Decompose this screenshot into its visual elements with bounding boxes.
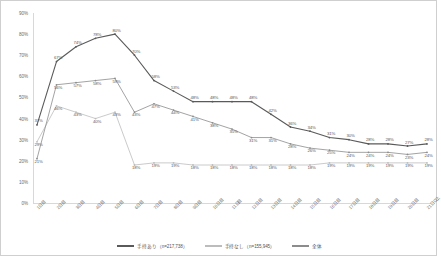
data-label: 23% bbox=[405, 155, 413, 160]
data-label: 38% bbox=[210, 123, 218, 128]
data-label: 19% bbox=[327, 163, 335, 168]
data-point bbox=[387, 143, 389, 145]
data-point bbox=[270, 113, 272, 115]
y-axis-tick-labels: 0%10%20%30%40%50%60%70%80%90% bbox=[1, 13, 31, 203]
data-point bbox=[407, 145, 409, 147]
data-label: 19% bbox=[151, 163, 159, 168]
data-label: 24% bbox=[385, 153, 393, 158]
y-tick-label: 10% bbox=[19, 179, 28, 184]
data-point bbox=[329, 137, 331, 139]
x-axis-tick-labels: 1日目2日目3日目4日目5日目6日目7日目8日目9日目10日目11日目12日目1… bbox=[33, 204, 431, 238]
data-label: 48% bbox=[210, 95, 218, 100]
data-label: 74% bbox=[73, 40, 81, 45]
legend-label: 全体 bbox=[312, 243, 322, 249]
data-label: 19% bbox=[346, 163, 354, 168]
data-label: 42% bbox=[268, 108, 276, 113]
data-label: 18% bbox=[229, 165, 237, 170]
data-label: 18% bbox=[210, 165, 218, 170]
data-label: 48% bbox=[190, 95, 198, 100]
data-point bbox=[56, 61, 58, 63]
data-point bbox=[75, 46, 77, 48]
data-point bbox=[153, 80, 155, 82]
data-label: 67% bbox=[54, 55, 62, 60]
data-label: 47% bbox=[151, 104, 159, 109]
data-label: 48% bbox=[249, 95, 257, 100]
data-label: 41% bbox=[190, 117, 198, 122]
data-point bbox=[426, 143, 428, 145]
legend-swatch-icon bbox=[292, 245, 309, 246]
legend-label: 手持なし（n=155,945） bbox=[225, 243, 275, 249]
data-label: 18% bbox=[132, 165, 140, 170]
data-point bbox=[368, 143, 370, 145]
data-label: 25% bbox=[327, 150, 335, 155]
data-point bbox=[231, 101, 233, 103]
data-label: 70% bbox=[132, 49, 140, 54]
data-point bbox=[348, 139, 350, 141]
data-label: 21% bbox=[34, 159, 42, 164]
data-label: 34% bbox=[307, 125, 315, 130]
legend-item-手持あり[interactable]: 手持あり（n=217,738） bbox=[117, 243, 187, 249]
data-label: 31% bbox=[327, 131, 335, 136]
legend-label: 手持あり（n=217,738） bbox=[137, 243, 187, 249]
data-label: 36% bbox=[288, 121, 296, 126]
data-label: 19% bbox=[171, 163, 179, 168]
data-label: 43% bbox=[73, 112, 81, 117]
data-label: 44% bbox=[171, 110, 179, 115]
data-label: 57% bbox=[73, 83, 81, 88]
data-label: 18% bbox=[249, 165, 257, 170]
data-point bbox=[173, 90, 175, 92]
data-point bbox=[290, 126, 292, 128]
data-label: 28% bbox=[385, 137, 393, 142]
data-label: 37% bbox=[34, 118, 42, 123]
data-label: 19% bbox=[385, 163, 393, 168]
data-label: 56% bbox=[54, 85, 62, 90]
series-container: 37%67%74%78%80%70%58%53%48%48%48%48%42%3… bbox=[33, 13, 431, 203]
data-label: 19% bbox=[424, 163, 432, 168]
y-tick-label: 80% bbox=[19, 32, 28, 37]
data-label: 18% bbox=[190, 165, 198, 170]
data-label: 78% bbox=[93, 32, 101, 37]
data-label: 58% bbox=[151, 74, 159, 79]
data-label: 30% bbox=[346, 133, 354, 138]
data-label: 43% bbox=[112, 112, 120, 117]
data-point bbox=[212, 101, 214, 103]
y-tick-label: 60% bbox=[19, 74, 28, 79]
data-label: 19% bbox=[405, 163, 413, 168]
data-label: 59% bbox=[112, 79, 120, 84]
legend-swatch-icon bbox=[205, 245, 222, 246]
data-label: 29% bbox=[34, 142, 42, 147]
data-point bbox=[95, 37, 97, 39]
data-label: 26% bbox=[307, 148, 315, 153]
data-label: 18% bbox=[307, 165, 315, 170]
data-label: 46% bbox=[54, 106, 62, 111]
data-point bbox=[36, 124, 38, 126]
data-label: 48% bbox=[229, 95, 237, 100]
data-label: 18% bbox=[268, 165, 276, 170]
data-label: 28% bbox=[424, 137, 432, 142]
y-tick-label: 20% bbox=[19, 158, 28, 163]
y-tick-label: 30% bbox=[19, 137, 28, 142]
data-label: 31% bbox=[268, 138, 276, 143]
y-tick-label: 70% bbox=[19, 53, 28, 58]
data-label: 58% bbox=[93, 81, 101, 86]
legend-swatch-icon bbox=[117, 245, 134, 246]
y-tick-label: 0% bbox=[22, 201, 28, 206]
chart-legend: 手持あり（n=217,738）手持なし（n=155,945）全体 bbox=[1, 240, 438, 252]
data-label: 28% bbox=[366, 137, 374, 142]
data-label: 24% bbox=[346, 153, 354, 158]
y-tick-label: 40% bbox=[19, 116, 28, 121]
data-label: 35% bbox=[229, 129, 237, 134]
data-label: 40% bbox=[93, 119, 101, 124]
data-point bbox=[134, 54, 136, 56]
legend-item-手持なし[interactable]: 手持なし（n=155,945） bbox=[205, 243, 275, 249]
data-label: 19% bbox=[366, 163, 374, 168]
data-label: 28% bbox=[288, 144, 296, 149]
data-point bbox=[251, 101, 253, 103]
data-label: 31% bbox=[249, 138, 257, 143]
y-tick-label: 90% bbox=[19, 11, 28, 16]
plot-area: 37%67%74%78%80%70%58%53%48%48%48%48%42%3… bbox=[33, 13, 431, 203]
legend-item-全体[interactable]: 全体 bbox=[292, 243, 322, 249]
data-label: 24% bbox=[366, 153, 374, 158]
data-label: 43% bbox=[132, 112, 140, 117]
